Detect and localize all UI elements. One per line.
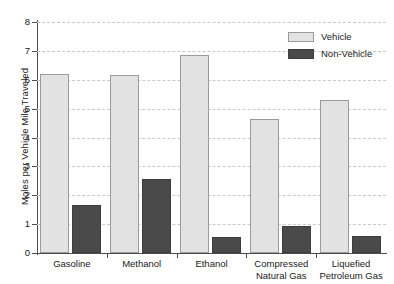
x-axis-label-line: Gasoline [37,258,107,270]
y-tick-label: 1 [6,218,30,229]
y-tick-label: 5 [6,103,30,114]
y-tick-label: 7 [6,45,30,56]
y-tick-label: 3 [6,160,30,171]
gridline [37,22,386,23]
bar-vehicle-methanol [110,75,139,253]
gridline [37,80,386,81]
bar-vehicle-compressed-natural-gas [250,119,279,253]
legend-swatch-vehicle-icon [288,32,314,42]
x-axis-label-line: Natural Gas [246,270,316,282]
bar-non-vehicle-compressed-natural-gas [282,226,311,253]
legend-label-vehicle: Vehicle [321,31,352,42]
y-tick-label: 4 [6,132,30,143]
x-axis-label-line: Ethanol [177,258,247,270]
bar-vehicle-gasoline [40,74,69,253]
x-axis-label-methanol: Methanol [107,258,177,270]
y-tick-label: 2 [6,189,30,200]
legend-label-non-vehicle: Non-Vehicle [321,48,372,59]
x-axis-label-gasoline: Gasoline [37,258,107,270]
legend-swatch-non-vehicle-icon [288,49,314,59]
bar-non-vehicle-methanol [142,179,171,253]
bar-non-vehicle-gasoline [72,205,101,253]
x-axis-label-line: Liquefied [316,258,386,270]
x-axis-label-ethanol: Ethanol [177,258,247,270]
x-axis-label-liquefied-petroleum-gas: LiquefiedPetroleum Gas [316,258,386,281]
x-axis-line [37,253,387,254]
legend-item-non-vehicle: Non-Vehicle [288,45,390,62]
y-tick-label: 8 [6,16,30,27]
x-axis-label-line: Compressed [246,258,316,270]
x-axis-label-line: Petroleum Gas [316,270,386,282]
bar-vehicle-ethanol [180,55,209,253]
bar-non-vehicle-ethanol [212,237,241,253]
x-axis-label-line: Methanol [107,258,177,270]
y-tick-label: 6 [6,74,30,85]
chart-legend: Vehicle Non-Vehicle [288,28,390,62]
bar-vehicle-liquefied-petroleum-gas [320,100,349,253]
y-tick-label: 0 [6,247,30,258]
bar-non-vehicle-liquefied-petroleum-gas [352,236,381,253]
legend-item-vehicle: Vehicle [288,28,390,45]
x-axis-label-compressed-natural-gas: CompressedNatural Gas [246,258,316,281]
bar-chart: Moles per Vehicle Mile Traveled 01234567… [0,0,394,284]
